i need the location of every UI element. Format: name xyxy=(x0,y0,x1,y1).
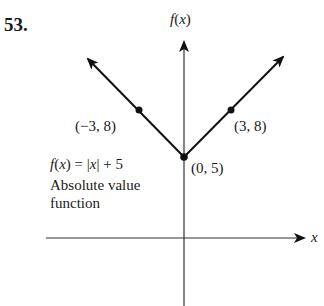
x-axis-label: x xyxy=(311,230,318,245)
point-3-8 xyxy=(228,107,235,114)
right-ray xyxy=(184,57,283,157)
left-ray xyxy=(88,59,184,157)
caption: Absolute value function xyxy=(50,176,140,212)
point-label-3-8: (3, 8) xyxy=(234,119,267,134)
point-0-5 xyxy=(180,153,188,161)
equation: f(x) = |x| + 5 xyxy=(50,157,123,172)
point-label-neg3-8: (−3, 8) xyxy=(75,119,116,134)
problem-number: 53. xyxy=(4,15,28,34)
caption-line-1: Absolute value xyxy=(50,176,140,194)
y-axis-label: f(x) xyxy=(170,12,191,27)
point-neg3-8 xyxy=(136,107,143,114)
point-label-0-5: (0, 5) xyxy=(191,161,224,176)
caption-line-2: function xyxy=(50,194,140,212)
graph-canvas xyxy=(0,0,324,306)
